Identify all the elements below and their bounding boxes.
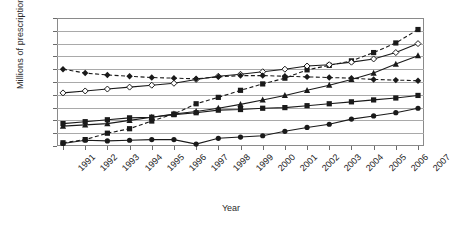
x-tick-label: 2004	[364, 152, 385, 173]
data-point-filled-diamond	[171, 75, 177, 81]
data-point-open-diamond	[371, 56, 377, 62]
x-tick-mark	[85, 146, 86, 150]
data-point-filled-square	[127, 126, 132, 131]
data-point-filled-circle	[260, 133, 265, 138]
data-point-filled-diamond	[104, 72, 110, 78]
x-tick-label: 2003	[342, 152, 363, 173]
series-series-1	[60, 27, 420, 145]
data-point-filled-circle	[415, 106, 420, 111]
x-tick-label: 1997	[209, 152, 230, 173]
x-tick-label: 2005	[386, 152, 407, 173]
x-tick-mark	[374, 146, 375, 150]
series-line	[63, 30, 418, 143]
data-point-filled-square	[238, 88, 243, 93]
x-tick-label: 1995	[165, 152, 186, 173]
data-point-filled-square	[393, 95, 398, 100]
x-tick-mark	[396, 146, 397, 150]
y-tick-mark	[53, 146, 57, 147]
data-point-filled-square	[327, 101, 332, 106]
x-tick-label: 1994	[142, 152, 163, 173]
data-point-open-diamond	[60, 90, 66, 96]
data-point-filled-square	[282, 105, 287, 110]
data-point-filled-triangle	[415, 52, 421, 58]
x-tick-label: 1992	[98, 152, 119, 173]
data-point-filled-diamond	[259, 72, 265, 78]
x-tick-mark	[307, 146, 308, 150]
series-series-5	[60, 93, 420, 126]
x-tick-mark	[285, 146, 286, 150]
data-point-filled-circle	[83, 138, 88, 143]
data-point-filled-circle	[349, 117, 354, 122]
x-tick-label: 2006	[409, 152, 430, 173]
x-tick-label: 2000	[276, 152, 297, 173]
data-point-filled-circle	[149, 137, 154, 142]
data-point-open-diamond	[282, 66, 288, 72]
x-tick-label: 1993	[120, 152, 141, 173]
x-tick-mark	[63, 146, 64, 150]
data-point-filled-circle	[371, 113, 376, 118]
data-point-filled-square	[260, 81, 265, 86]
x-tick-mark	[152, 146, 153, 150]
x-tick-label: 1996	[187, 152, 208, 173]
data-point-filled-square	[105, 131, 110, 136]
data-point-filled-square	[393, 40, 398, 45]
x-tick-label: 1991	[76, 152, 97, 173]
data-point-open-diamond	[104, 86, 110, 92]
data-point-open-diamond	[415, 41, 421, 47]
x-tick-label: 2001	[298, 152, 319, 173]
data-point-filled-square	[60, 121, 65, 126]
x-tick-label: 2002	[320, 152, 341, 173]
x-tick-mark	[241, 146, 242, 150]
x-tick-mark	[107, 146, 108, 150]
data-point-filled-circle	[60, 141, 65, 146]
data-point-filled-diamond	[393, 77, 399, 83]
data-point-filled-square	[260, 106, 265, 111]
x-axis-title: Year	[0, 203, 442, 213]
data-point-filled-square	[304, 103, 309, 108]
data-point-filled-circle	[127, 138, 132, 143]
data-point-filled-circle	[216, 136, 221, 141]
data-point-filled-square	[194, 101, 199, 106]
data-point-filled-diamond	[82, 70, 88, 76]
data-point-filled-square	[415, 27, 420, 32]
data-point-filled-square	[371, 50, 376, 55]
data-point-open-diamond	[149, 82, 155, 88]
data-point-open-diamond	[82, 88, 88, 94]
data-point-filled-square	[238, 107, 243, 112]
data-point-filled-square	[105, 117, 110, 122]
data-point-filled-square	[171, 112, 176, 117]
x-tick-mark	[218, 146, 219, 150]
x-axis-title-text: Year	[222, 203, 240, 213]
data-point-filled-square	[216, 95, 221, 100]
data-point-filled-circle	[393, 110, 398, 115]
data-point-filled-diamond	[149, 74, 155, 80]
data-point-filled-circle	[194, 141, 199, 146]
series-line	[63, 44, 418, 93]
x-tick-mark	[130, 146, 131, 150]
data-point-filled-square	[149, 115, 154, 120]
series-layer	[57, 18, 424, 146]
x-tick-mark	[263, 146, 264, 150]
data-point-filled-square	[83, 119, 88, 124]
data-point-filled-square	[415, 93, 420, 98]
data-point-filled-circle	[238, 134, 243, 139]
data-point-filled-square	[194, 110, 199, 115]
data-point-filled-square	[216, 108, 221, 113]
data-point-filled-circle	[171, 137, 176, 142]
data-point-filled-circle	[105, 138, 110, 143]
data-point-filled-square	[349, 99, 354, 104]
x-tick-label: 1998	[231, 152, 252, 173]
data-point-filled-diamond	[126, 73, 132, 79]
y-axis-title: Millions of prescriptions	[15, 0, 25, 106]
x-tick-label: 1999	[253, 152, 274, 173]
x-tick-mark	[174, 146, 175, 150]
x-tick-mark	[351, 146, 352, 150]
series-series-2	[60, 41, 421, 96]
data-point-open-diamond	[127, 84, 133, 90]
data-point-filled-diamond	[304, 74, 310, 80]
x-tick-label: 2007	[431, 152, 452, 173]
data-point-filled-circle	[304, 125, 309, 130]
data-point-filled-circle	[282, 129, 287, 134]
data-point-filled-diamond	[370, 76, 376, 82]
